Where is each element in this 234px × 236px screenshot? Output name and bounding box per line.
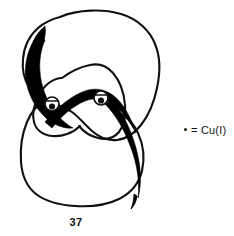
cu-center-right-dot-icon: [98, 97, 104, 103]
cu-center-left-dot-icon: [49, 103, 55, 109]
cu-center-right: [94, 91, 108, 105]
legend-label: = Cu(I): [191, 124, 226, 136]
thick-ribbon-top-connector: [33, 26, 45, 43]
catenane-structure-drawing: [0, 0, 234, 236]
legend: = Cu(I): [184, 124, 226, 137]
cu-center-left: [45, 97, 59, 111]
legend-dot-icon: [184, 128, 187, 131]
compound-number-label: 37: [64, 216, 88, 228]
figure-root: = Cu(I) 37: [0, 0, 234, 236]
thick-ribbon-bottom-taper: [131, 194, 137, 209]
